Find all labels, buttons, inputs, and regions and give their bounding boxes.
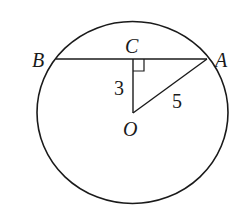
- label-o: O: [123, 118, 137, 140]
- label-length-oa: 5: [172, 90, 182, 112]
- label-length-oc: 3: [114, 77, 124, 99]
- geometry-diagram: B C A O 3 5: [0, 0, 247, 219]
- diagram-svg: B C A O 3 5: [0, 0, 247, 219]
- label-c: C: [125, 35, 139, 57]
- label-a: A: [213, 49, 228, 71]
- label-b: B: [32, 49, 44, 71]
- right-angle-marker: [133, 59, 144, 71]
